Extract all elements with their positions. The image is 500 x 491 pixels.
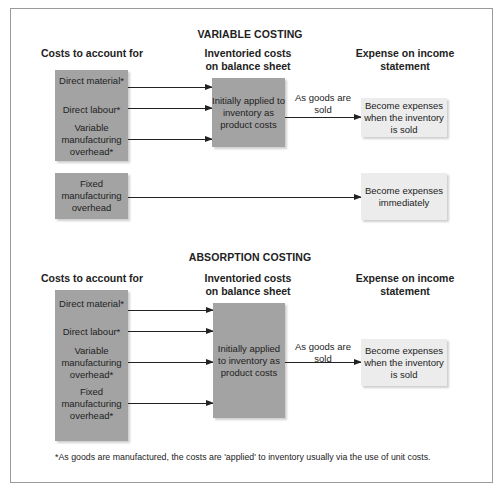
arrow-direct-labour xyxy=(128,331,213,332)
inventory-box-text: Initially applied to inventory as produc… xyxy=(212,78,285,147)
inventory-box: Initially applied to inventory as produc… xyxy=(212,78,285,147)
header-expense-on-income-statement: Expense on income statement xyxy=(350,47,460,73)
arrow-goods-sold xyxy=(285,362,361,363)
cost-variable-overhead: Variable manufacturing overhead* xyxy=(55,122,128,158)
expense-box-sold: Become expenses when the inventory is so… xyxy=(361,98,447,137)
header-costs-to-account-for: Costs to account for xyxy=(40,272,144,285)
fixed-overhead-text: Fixed manufacturing overhead xyxy=(55,173,128,219)
arrow-goods-sold xyxy=(285,117,361,118)
as-goods-sold-label: As goods are sold xyxy=(288,92,358,116)
arrow-variable-overhead xyxy=(128,139,212,140)
cost-fixed-overhead: Fixed manufacturing overhead* xyxy=(55,386,128,422)
inventory-box: Initially applied to inventory as produc… xyxy=(213,303,285,418)
variable-costing-title: VARIABLE COSTING xyxy=(0,28,500,40)
header-inventoried-costs: Inventoried costs on balance sheet xyxy=(198,272,298,298)
absorption-costs-box: Direct material* Direct labour* Variable… xyxy=(55,290,128,441)
arrow-direct-material xyxy=(128,87,212,88)
header-inventoried-costs: Inventoried costs on balance sheet xyxy=(198,47,298,73)
header-costs-to-account-for: Costs to account for xyxy=(40,47,144,60)
arrow-direct-labour xyxy=(128,108,212,109)
arrow-fixed-overhead xyxy=(128,197,361,198)
expense-box-sold-text: Become expenses when the inventory is so… xyxy=(361,100,447,136)
footnote: *As goods are manufactured, the costs ar… xyxy=(55,452,430,462)
cost-direct-labour: Direct labour* xyxy=(55,326,128,338)
header-expense-on-income-statement: Expense on income statement xyxy=(350,272,460,298)
fixed-overhead-box: Fixed manufacturing overhead xyxy=(55,173,128,219)
cost-direct-material: Direct material* xyxy=(55,298,128,310)
cost-direct-labour: Direct labour* xyxy=(55,104,128,116)
variable-costs-box: Direct material* Direct labour* Variable… xyxy=(55,70,128,161)
expense-box-sold-text: Become expenses when the inventory is so… xyxy=(361,345,447,381)
inventory-box-text: Initially applied to inventory as produc… xyxy=(213,303,285,418)
expense-box-immediate: Become expenses immediately xyxy=(361,173,447,220)
arrow-variable-overhead xyxy=(128,362,213,363)
expense-box-sold: Become expenses when the inventory is so… xyxy=(361,339,447,386)
arrow-fixed-overhead xyxy=(128,403,213,404)
expense-box-immediate-text: Become expenses immediately xyxy=(361,185,447,209)
absorption-costing-title: ABSORPTION COSTING xyxy=(0,251,500,263)
cost-direct-material: Direct material* xyxy=(55,75,128,87)
cost-variable-overhead: Variable manufacturing overhead* xyxy=(55,345,128,381)
arrow-direct-material xyxy=(128,310,213,311)
